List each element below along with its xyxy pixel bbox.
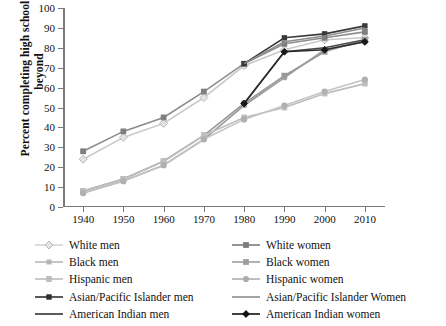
legend-item-label: Asian/Pacific Islander Women bbox=[266, 291, 406, 303]
series-line bbox=[244, 42, 365, 104]
y-tick-label: 40 bbox=[44, 121, 55, 133]
x-tick-label: 1940 bbox=[72, 213, 94, 225]
legend-item[interactable]: Asian/Pacific Islander men bbox=[34, 288, 234, 305]
legend-item-label: White men bbox=[69, 239, 120, 251]
data-point bbox=[161, 162, 167, 168]
legend-marker-none-icon bbox=[231, 290, 261, 304]
data-point bbox=[241, 116, 247, 122]
y-tick-label: 30 bbox=[44, 141, 55, 153]
data-point bbox=[120, 178, 126, 184]
x-tick bbox=[204, 207, 205, 212]
data-point bbox=[201, 89, 207, 95]
y-tick-label: 90 bbox=[44, 22, 55, 34]
y-tick-label: 100 bbox=[39, 2, 56, 14]
x-tick bbox=[123, 207, 124, 212]
legend-item-label: American Indian women bbox=[266, 308, 380, 320]
data-point bbox=[362, 77, 368, 83]
x-tick-label: 1980 bbox=[233, 213, 255, 225]
x-tick-label: 1950 bbox=[112, 213, 134, 225]
legend-item-label: White women bbox=[266, 239, 331, 251]
y-axis-title: Percent completing high school or beyond bbox=[19, 0, 46, 162]
legend-column-women: White womenBlack womenHispanic womenAsia… bbox=[231, 236, 446, 323]
x-tick-label: 1990 bbox=[273, 213, 295, 225]
legend-item-label: Hispanic women bbox=[266, 273, 344, 285]
data-point bbox=[282, 35, 287, 40]
data-point bbox=[281, 73, 287, 79]
series-line bbox=[83, 40, 365, 191]
legend-item[interactable]: Black men bbox=[34, 253, 234, 270]
y-tick bbox=[58, 207, 63, 208]
legend-item-label: Black women bbox=[266, 256, 330, 268]
series-layer bbox=[63, 8, 385, 207]
data-point bbox=[80, 148, 86, 154]
data-point bbox=[362, 29, 368, 35]
x-tick bbox=[284, 207, 285, 212]
legend-marker-diamond-filled-icon bbox=[231, 307, 261, 321]
data-point bbox=[201, 136, 207, 142]
x-tick-label: 1970 bbox=[193, 213, 215, 225]
legend-marker-square-icon bbox=[231, 238, 261, 252]
legend-item[interactable]: Asian/Pacific Islander Women bbox=[231, 288, 446, 305]
data-point bbox=[79, 155, 87, 163]
data-point bbox=[161, 115, 167, 121]
x-tick bbox=[244, 207, 245, 212]
data-point bbox=[322, 88, 328, 94]
legend-item[interactable]: American Indian women bbox=[231, 306, 446, 323]
x-tick bbox=[365, 207, 366, 212]
plot-area: 0102030405060708090100 19401950196019701… bbox=[63, 8, 385, 207]
y-tick-label: 70 bbox=[44, 62, 55, 74]
chart-legend: White menBlack menHispanic menAsian/Paci… bbox=[34, 236, 446, 324]
legend-item[interactable]: White men bbox=[34, 236, 234, 253]
legend-marker-square-small-icon bbox=[34, 255, 64, 269]
data-point bbox=[160, 119, 168, 127]
data-point bbox=[120, 128, 126, 134]
series-black-men bbox=[81, 39, 368, 195]
legend-item[interactable]: Black women bbox=[231, 253, 446, 270]
legend-marker-square-dark-icon bbox=[34, 290, 64, 304]
y-tick-label: 50 bbox=[44, 102, 55, 114]
x-tick-label: 2000 bbox=[314, 213, 336, 225]
plot-canvas: 0102030405060708090100 19401950196019701… bbox=[63, 8, 385, 207]
legend-item[interactable]: American Indian men bbox=[34, 306, 234, 323]
y-tick-label: 0 bbox=[50, 201, 56, 213]
x-tick-label: 2010 bbox=[354, 213, 376, 225]
series-american-indian-women bbox=[241, 38, 369, 106]
data-point bbox=[80, 190, 86, 196]
series-black-women bbox=[80, 37, 368, 194]
legend-item-label: Asian/Pacific Islander men bbox=[69, 291, 194, 303]
series-line bbox=[83, 42, 365, 193]
x-tick bbox=[164, 207, 165, 212]
series-line bbox=[83, 38, 365, 159]
x-tick bbox=[325, 207, 326, 212]
y-tick-label: 80 bbox=[44, 42, 55, 54]
x-tick-label: 1960 bbox=[153, 213, 175, 225]
y-tick-label: 20 bbox=[44, 161, 55, 173]
legend-marker-none-icon bbox=[34, 307, 64, 321]
legend-marker-square-icon bbox=[231, 255, 261, 269]
x-tick bbox=[83, 207, 84, 212]
legend-item-label: American Indian men bbox=[69, 308, 169, 320]
legend-item-label: Black men bbox=[69, 256, 119, 268]
data-point bbox=[119, 133, 127, 141]
legend-item[interactable]: White women bbox=[231, 236, 446, 253]
legend-column-men: White menBlack menHispanic menAsian/Paci… bbox=[34, 236, 234, 323]
legend-item-label: Hispanic men bbox=[69, 273, 133, 285]
data-point bbox=[281, 102, 287, 108]
legend-marker-diamond-open-icon bbox=[34, 238, 64, 252]
y-tick-label: 60 bbox=[44, 82, 55, 94]
legend-marker-square-round-icon bbox=[34, 272, 64, 286]
y-tick-label: 10 bbox=[44, 181, 55, 193]
legend-item[interactable]: Hispanic women bbox=[231, 271, 446, 288]
legend-marker-circle-icon bbox=[231, 272, 261, 286]
legend-item[interactable]: Hispanic men bbox=[34, 271, 234, 288]
